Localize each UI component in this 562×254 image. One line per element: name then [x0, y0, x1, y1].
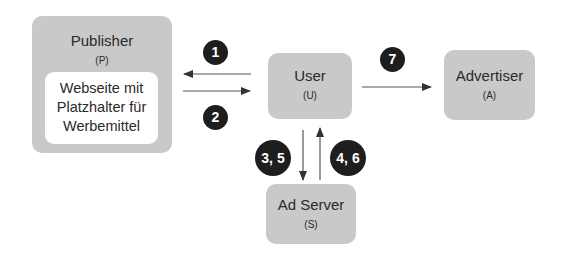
- publisher-abbr: (P): [32, 55, 172, 67]
- user-abbr: (U): [268, 90, 352, 102]
- adserver-title: Ad Server: [266, 196, 356, 214]
- advertiser-abbr: (A): [444, 90, 535, 102]
- step-badge-1: 1: [203, 40, 228, 65]
- adserver-node: Ad Server (S): [266, 184, 356, 244]
- publisher-title: Publisher: [32, 32, 172, 50]
- advertiser-title: Advertiser: [444, 67, 535, 85]
- publisher-node: Publisher (P) Webseite mit Platzhalter f…: [32, 16, 172, 153]
- webpage-line-2: Platzhalter für: [45, 98, 158, 117]
- step-badge-7: 7: [380, 47, 405, 72]
- webpage-line-1: Webseite mit: [45, 79, 158, 98]
- adserver-abbr: (S): [266, 219, 356, 231]
- step-badge-4-6: 4, 6: [330, 140, 366, 176]
- step-badge-3-5: 3, 5: [255, 140, 291, 176]
- step-badge-2: 2: [203, 105, 228, 130]
- user-node: User (U): [268, 53, 352, 119]
- advertiser-node: Advertiser (A): [444, 50, 535, 120]
- publisher-webpage-box: Webseite mit Platzhalter für Werbemittel: [45, 72, 158, 144]
- user-title: User: [268, 67, 352, 85]
- webpage-line-3: Werbemittel: [45, 117, 158, 136]
